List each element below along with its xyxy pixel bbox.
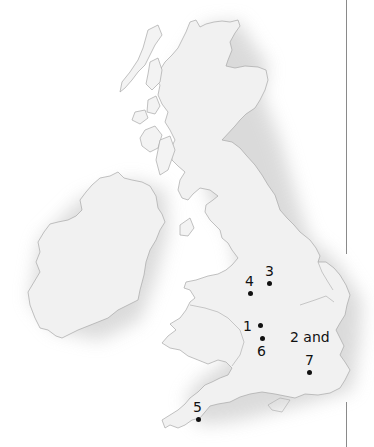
marker-label-3: 3 xyxy=(265,264,274,278)
marker-label-4: 4 xyxy=(245,274,254,288)
marker-label-6: 6 xyxy=(257,344,266,358)
marker-label-1: 1 xyxy=(243,319,252,333)
marker-dot-1 xyxy=(258,323,263,328)
marker-label-2-and: 2 and xyxy=(290,330,330,344)
page-rule-top xyxy=(346,0,347,254)
ireland-landmass xyxy=(28,172,165,338)
marker-dot-5 xyxy=(196,417,201,422)
marker-label-7: 7 xyxy=(305,353,314,367)
british-isles-map xyxy=(0,0,374,447)
marker-dot-4 xyxy=(248,291,253,296)
marker-dot-2-and-7 xyxy=(307,370,312,375)
marker-dot-6 xyxy=(260,336,265,341)
marker-label-5: 5 xyxy=(193,400,202,414)
page-rule-bottom xyxy=(346,402,347,447)
marker-dot-3 xyxy=(267,281,272,286)
